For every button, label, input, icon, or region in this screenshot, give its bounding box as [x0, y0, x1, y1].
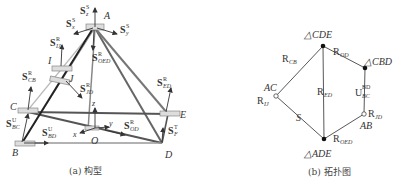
- svg-text:JD: JD: [86, 89, 94, 95]
- node-label-ac: AC: [263, 82, 277, 93]
- axis-label-y: y: [108, 119, 113, 128]
- svg-text:S: S: [72, 17, 75, 23]
- point-label-c: C: [10, 101, 17, 112]
- svg-text:R: R: [282, 53, 289, 64]
- screw-label-sx: SSx: [66, 17, 75, 30]
- point-label-e: E: [179, 109, 186, 120]
- svg-text:R: R: [333, 46, 340, 57]
- node-label-cbd: △CBD: [363, 56, 393, 67]
- edge-ab-ade: [324, 114, 364, 139]
- svg-text:OD: OD: [130, 126, 139, 132]
- edge-label-rcb: RCB: [282, 53, 297, 65]
- svg-text:OED: OED: [98, 58, 111, 64]
- screw-label-sbd: SUBD: [42, 126, 57, 139]
- point-label-i: I: [47, 55, 52, 66]
- screw-label-sod: SROD: [124, 119, 139, 132]
- node-annotation-rij: RIJ: [257, 95, 269, 107]
- svg-text:z: z: [85, 11, 89, 17]
- screw-label-sz: SSz: [80, 4, 89, 17]
- screw-label-scb: SRCB: [22, 70, 36, 83]
- point-label-d: D: [164, 149, 173, 160]
- edge-label-roed: ROED: [333, 133, 353, 145]
- svg-text:y: y: [125, 30, 129, 36]
- node-cde: [321, 44, 326, 49]
- svg-text:OD: OD: [340, 52, 349, 58]
- node-label-ade: △ADE: [303, 148, 331, 159]
- svg-text:x: x: [71, 24, 75, 30]
- node-label-ab: AB: [359, 120, 372, 131]
- edge-label-red: RED: [317, 86, 333, 98]
- svg-text:R: R: [368, 108, 375, 119]
- point-label-j: J: [69, 73, 74, 84]
- edge-label-rod: ROD: [333, 46, 349, 58]
- svg-text:R: R: [317, 86, 324, 97]
- svg-text:F: F: [173, 131, 178, 137]
- node-label-cde: △CDE: [303, 29, 332, 40]
- point-label-a: A: [103, 10, 111, 21]
- svg-text:CB: CB: [28, 77, 36, 83]
- node-ade: [322, 137, 327, 142]
- joint-i: [52, 66, 72, 71]
- joint-b: [15, 141, 35, 146]
- diagram-canvas: A I J C E B D O z y x SSz SSx SSy SRIJ S…: [0, 0, 393, 182]
- figure-b-topology: △CDE △CBD AC AB △ADE RCB ROD RED UBDBC S…: [257, 29, 393, 159]
- svg-text:IJ: IJ: [263, 101, 269, 107]
- svg-text:BC: BC: [362, 93, 371, 99]
- caption-figure-a: (a) 构型: [69, 164, 102, 177]
- screw-label-soed: SROED: [92, 51, 111, 64]
- edge-label-s: S: [296, 112, 301, 123]
- edge-cbd-ab: [364, 68, 365, 114]
- svg-text:S: S: [296, 112, 301, 123]
- svg-text:R: R: [28, 70, 32, 76]
- svg-text:T: T: [174, 124, 178, 130]
- svg-text:S: S: [86, 4, 89, 10]
- screw-label-sij: SRIJ: [50, 36, 61, 49]
- svg-text:U: U: [12, 117, 17, 123]
- svg-text:R: R: [333, 133, 340, 144]
- svg-text:CB: CB: [289, 59, 297, 65]
- svg-text:U: U: [48, 126, 53, 132]
- node-annotation-rjd: RJD: [368, 108, 383, 120]
- svg-text:ED: ED: [323, 92, 333, 98]
- screw-label-sf: STF: [168, 124, 178, 137]
- svg-text:R: R: [130, 119, 134, 125]
- svg-text:IJ: IJ: [55, 43, 61, 49]
- svg-text:R: R: [56, 36, 60, 42]
- node-ab: [362, 112, 366, 116]
- node-ac: [274, 94, 278, 98]
- axis-label-x: x: [72, 130, 77, 139]
- svg-text:BC: BC: [12, 124, 21, 130]
- caption-figure-b: (b) 拓扑图: [308, 165, 351, 178]
- svg-text:ED: ED: [162, 83, 172, 89]
- edge-label-ubc: UBDBC: [355, 84, 371, 99]
- screw-label-sy: SSy: [120, 23, 129, 36]
- svg-text:BD: BD: [362, 84, 371, 90]
- svg-text:S: S: [126, 23, 129, 29]
- svg-text:R: R: [86, 82, 90, 88]
- svg-text:R: R: [257, 95, 264, 106]
- svg-text:JD: JD: [375, 114, 383, 120]
- svg-text:R: R: [98, 51, 102, 57]
- screw-label-sed: SRED: [157, 76, 172, 89]
- figure-a-mechanism: A I J C E B D O z y x SSz SSx SSy SRIJ S…: [6, 4, 186, 160]
- axis-label-z: z: [91, 99, 96, 108]
- screw-label-sbc: SUBC: [6, 117, 21, 130]
- svg-text:OED: OED: [340, 139, 353, 145]
- svg-text:R: R: [163, 76, 167, 82]
- point-label-o: O: [91, 135, 98, 146]
- svg-text:BD: BD: [48, 133, 57, 139]
- joint-e: [160, 111, 180, 116]
- point-label-b: B: [12, 147, 18, 158]
